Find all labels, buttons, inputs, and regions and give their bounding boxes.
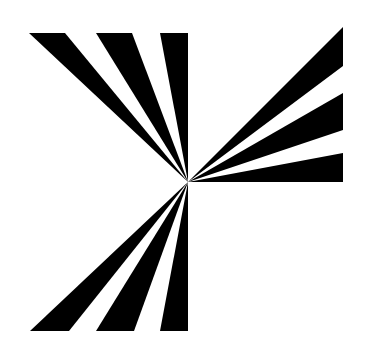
radial-ray-graphic [0, 0, 368, 359]
